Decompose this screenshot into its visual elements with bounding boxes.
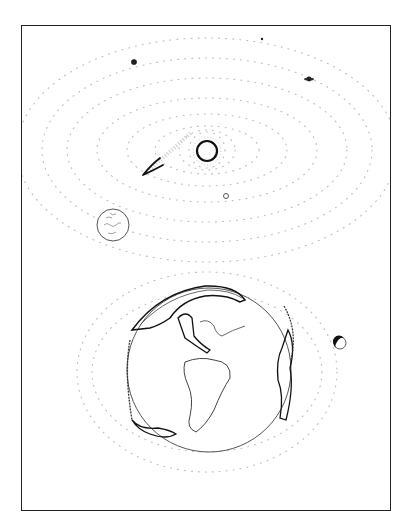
saturn-icon: [304, 77, 314, 82]
moon-icon: [333, 335, 346, 349]
sun-icon: [193, 137, 221, 165]
small-planet-icon: [224, 194, 229, 199]
comet-icon: [143, 132, 192, 175]
dark-planet-icon: [131, 59, 136, 64]
earth-icon: [127, 286, 293, 452]
mars-icon: [97, 209, 129, 241]
solar-system-illustration: [0, 0, 411, 532]
distant-planet-icon: [261, 38, 263, 40]
